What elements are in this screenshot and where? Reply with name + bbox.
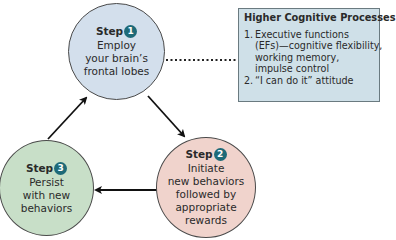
- step-3-circle: Step 3 Persist with new behaviors: [0, 140, 94, 236]
- box-item-1: 1. Executive functions (EFs)—cognitive f…: [244, 29, 374, 75]
- step-label: Step: [96, 25, 123, 38]
- step-1-line: your brain’s: [85, 52, 148, 65]
- item-line: “I can do it” attitude: [255, 75, 354, 87]
- step-1-heading: Step 1: [96, 25, 137, 38]
- step-2-line: appropriate: [175, 201, 236, 214]
- step-number-badge: 1: [124, 25, 137, 38]
- item-number: 2.: [244, 75, 255, 87]
- step-1-line: frontal lobes: [84, 65, 150, 78]
- arrow-step3-to-step1: [48, 98, 86, 139]
- item-number: 1.: [244, 29, 255, 75]
- step-2-circle: Step 2 Initiate new behaviors followed b…: [156, 137, 256, 238]
- higher-cognitive-processes-box: Higher Cognitive Processes 1. Executive …: [238, 8, 380, 102]
- box-item-2: 2. “I can do it” attitude: [244, 75, 374, 87]
- step-1-line: Employ: [97, 39, 136, 52]
- item-line: impulse control: [255, 63, 382, 75]
- step-2-line: followed by: [176, 188, 236, 201]
- item-line: Executive functions: [255, 29, 382, 41]
- step-label: Step: [26, 162, 53, 175]
- step-3-line: behaviors: [21, 202, 73, 215]
- step-3-heading: Step 3: [26, 162, 67, 175]
- box-title: Higher Cognitive Processes: [244, 12, 374, 24]
- step-number-badge: 3: [54, 162, 67, 175]
- step-2-heading: Step 2: [185, 148, 226, 161]
- item-line: working memory,: [255, 52, 382, 64]
- step-3-line: Persist: [29, 176, 64, 189]
- item-line: (EFs)—cognitive flexibility,: [255, 40, 382, 52]
- step-2-line: new behaviors: [168, 175, 245, 188]
- step-3-line: with new: [23, 189, 70, 202]
- step-2-line: Initiate: [188, 162, 225, 175]
- step-1-circle: Step 1 Employ your brain’s frontal lobes: [68, 3, 165, 100]
- step-2-line: rewards: [185, 214, 227, 227]
- step-label: Step: [185, 148, 212, 161]
- step-number-badge: 2: [214, 148, 227, 161]
- arrow-step1-to-step2: [148, 96, 184, 136]
